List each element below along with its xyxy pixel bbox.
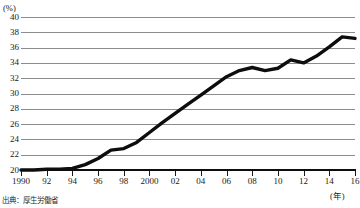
x-axis-tick-label: 1990: [12, 177, 30, 186]
x-axis-tick-label: 10: [273, 177, 282, 186]
x-axis-tick-label: 14: [325, 177, 334, 186]
x-axis-tick-label: 02: [171, 177, 180, 186]
x-axis-tick-label: 92: [42, 177, 51, 186]
x-axis-tick-label: 12: [299, 177, 308, 186]
source-caption: 出典：厚生労働省: [2, 197, 58, 205]
x-axis-tick-label: 2000: [140, 177, 158, 186]
x-axis-tick-label: 94: [68, 177, 77, 186]
x-axis-unit-label: (年): [330, 192, 345, 201]
x-axis-tick-label: 96: [94, 177, 103, 186]
x-axis-tick-label: 98: [119, 177, 128, 186]
x-axis-tick-label: 06: [222, 177, 231, 186]
x-axis-tick-label: 04: [196, 177, 205, 186]
x-axis-tick-label: 08: [248, 177, 257, 186]
line-chart: (%) 4038363432302826242220 (年) 出典：厚生労働省 …: [0, 0, 360, 208]
x-axis-tick-label: 16: [351, 177, 360, 186]
